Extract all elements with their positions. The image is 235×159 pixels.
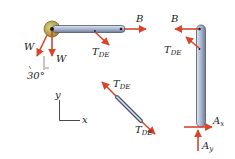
member-de-highlight (117, 97, 141, 121)
label-tde-bar: TDE (92, 46, 109, 59)
label-w-vertical: W (56, 53, 67, 64)
pin-right (120, 28, 123, 31)
coordinate-axes: y x (54, 89, 88, 125)
angle-tick-left (29, 66, 31, 69)
label-ay: Ay (201, 140, 214, 153)
pin-top (198, 28, 201, 31)
label-ax: Ax (212, 115, 224, 128)
label-angle: 30° (27, 70, 45, 81)
label-tde-member-bottom: TDE (135, 124, 152, 137)
label-tde-member-top: TDE (113, 78, 130, 91)
pin-mid-right (199, 48, 201, 50)
label-axis-y: y (54, 89, 61, 100)
label-b-right: B (170, 13, 178, 24)
pin-left (50, 27, 54, 31)
tde-arrow-bar (95, 32, 109, 45)
label-w-slanted: W (24, 41, 35, 52)
w-slanted-arrow (37, 33, 48, 56)
two-force-member: TDE TDE (102, 78, 155, 137)
free-body-diagram: B TDE W W 30° y x TDE TDE (0, 0, 235, 159)
vertical-bar-assembly: B TDE Ax Ay (164, 13, 224, 153)
label-tde-right-bar: TDE (164, 44, 181, 57)
horizontal-bar-assembly: B TDE W W 30° (24, 13, 146, 81)
label-b-left: B (135, 13, 143, 24)
vertical-bar (197, 25, 206, 127)
label-axis-x: x (82, 114, 88, 125)
horizontal-bar (52, 26, 125, 33)
